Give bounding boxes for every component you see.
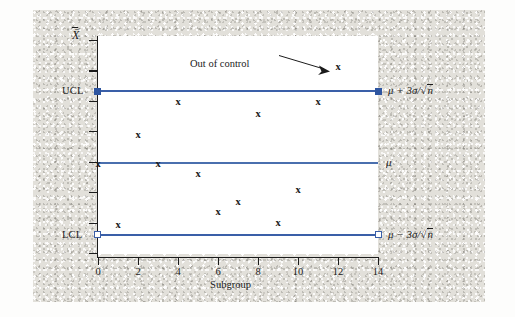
data-point: x	[194, 168, 203, 179]
y-axis-tick	[89, 253, 97, 254]
y-axis-tick	[89, 192, 97, 193]
right-label-ucl: μ + 3σ/√n	[388, 84, 433, 96]
data-point: x	[154, 158, 163, 169]
control-line-start-marker-ucl	[94, 88, 101, 95]
out-of-control-arrow-icon	[278, 54, 340, 76]
control-line-end-marker-ucl	[375, 88, 382, 95]
data-point: x	[234, 196, 243, 207]
out-of-control-annotation-label: Out of control	[190, 58, 250, 69]
y-axis-title-text: X̄	[72, 28, 79, 43]
data-point: x	[214, 206, 223, 217]
x-axis-tick	[338, 258, 339, 265]
x-axis-tick-label: 4	[167, 266, 189, 277]
x-axis-title: Subgroup	[0, 279, 515, 290]
data-point: x	[114, 219, 123, 230]
x-axis-tick-label: 14	[367, 266, 389, 277]
control-chart-figure: 02468101214 X̄ Subgroup UCLμ + 3σ/√nμLCL…	[0, 0, 515, 317]
control-line-start-marker-lcl	[94, 231, 101, 238]
y-axis-tick	[89, 70, 97, 71]
x-axis-tick-label: 12	[327, 266, 349, 277]
y-axis-tick	[89, 40, 97, 41]
x-axis-line	[97, 257, 379, 258]
x-axis-tick	[98, 258, 99, 265]
data-point: x	[254, 108, 263, 119]
y-axis-title: X̄	[72, 28, 79, 43]
axis-label-lcl: LCL	[62, 229, 82, 240]
x-axis-tick	[178, 258, 179, 265]
control-line-lcl	[98, 234, 378, 236]
x-axis-tick	[258, 258, 259, 265]
right-label-lcl: μ − 3σ/√n	[388, 228, 433, 240]
data-point: x	[294, 184, 303, 195]
x-axis-tick	[218, 258, 219, 265]
y-axis-tick	[89, 223, 97, 224]
control-line-end-marker-lcl	[375, 231, 382, 238]
data-point: x	[134, 129, 143, 140]
x-axis-tick-label: 8	[247, 266, 269, 277]
y-axis-line	[97, 36, 98, 258]
x-axis-tick-label: 6	[207, 266, 229, 277]
data-point: x	[94, 158, 103, 169]
x-axis-tick-label: 2	[127, 266, 149, 277]
right-label-center: μ	[386, 156, 392, 168]
x-axis-title-text: Subgroup	[210, 279, 251, 290]
control-line-center	[98, 162, 378, 164]
y-axis-tick	[89, 101, 97, 102]
data-point: x	[314, 96, 323, 107]
x-axis-tick	[138, 258, 139, 265]
y-axis-tick	[89, 131, 97, 132]
data-point: x	[174, 96, 183, 107]
data-point: x	[274, 217, 283, 228]
x-axis-tick	[378, 258, 379, 265]
x-axis-tick	[298, 258, 299, 265]
control-line-ucl	[98, 90, 378, 92]
x-axis-tick-label: 0	[87, 266, 109, 277]
x-axis-tick-label: 10	[287, 266, 309, 277]
axis-label-ucl: UCL	[62, 85, 84, 96]
